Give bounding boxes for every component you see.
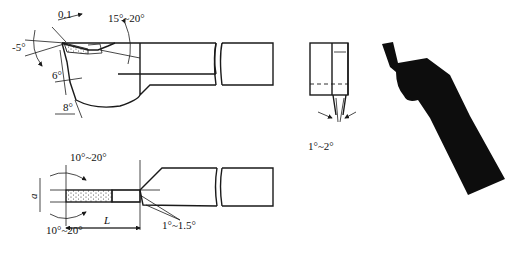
tool-photo [382, 42, 505, 195]
angle-top-label: 10°~20° [70, 151, 107, 163]
angle-bottom-label: 10°~20° [46, 224, 83, 236]
width-label: a [27, 193, 39, 199]
secondary-rake-label: 15°~20° [108, 12, 145, 24]
length-label: L [103, 214, 110, 226]
clearance-top-label: 6° [52, 69, 62, 81]
top-view [40, 160, 273, 230]
chip-land-label: 0.1 [58, 8, 72, 20]
end-view [310, 43, 356, 122]
rake-angle-label: -5° [12, 41, 26, 53]
side-taper-label: 1°~2° [308, 140, 334, 152]
clearance-bottom-label: 8° [63, 101, 73, 113]
cutting-tool-drawing: 0.1 -5° 6° 8° 15°~20° 10°~20° 10°~20° a … [0, 0, 515, 256]
side-clearance-label: 1°~1.5° [162, 219, 196, 231]
